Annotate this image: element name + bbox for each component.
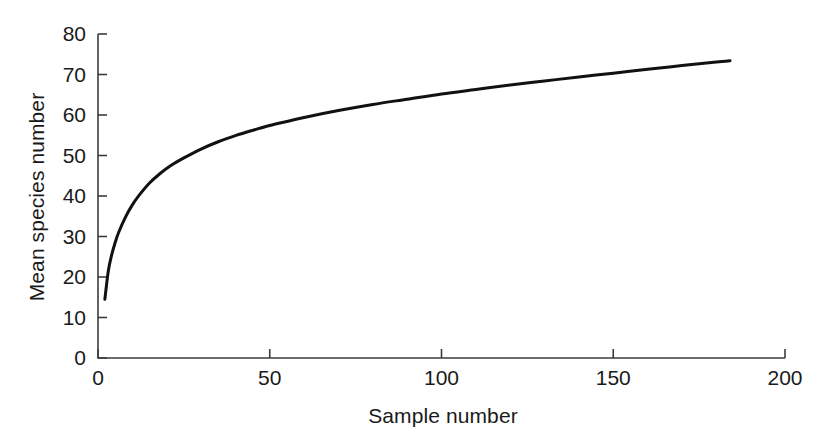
x-tick-label: 150 (596, 366, 631, 390)
y-tick-label: 20 (63, 265, 86, 289)
y-tick-label: 40 (63, 184, 86, 208)
chart-figure: 01020304050607080 050100150200 Mean spec… (0, 0, 815, 445)
x-tick-label: 200 (767, 366, 802, 390)
x-tick-label: 0 (92, 366, 104, 390)
y-tick-label: 10 (63, 306, 86, 330)
y-tick-label: 0 (74, 346, 86, 370)
data-series (105, 61, 730, 300)
x-tick-label: 50 (258, 366, 281, 390)
y-tick-label: 60 (63, 103, 86, 127)
y-tick-label: 70 (63, 63, 86, 87)
axis-lines (98, 34, 785, 358)
x-tick-label: 100 (424, 366, 459, 390)
series-line-0 (105, 61, 730, 300)
y-tick-label: 30 (63, 225, 86, 249)
axis-ticks (98, 34, 785, 358)
y-tick-label: 50 (63, 144, 86, 168)
x-axis-title: Sample number (98, 404, 788, 428)
chart-plot-area (0, 0, 815, 445)
y-tick-label: 80 (63, 22, 86, 46)
y-axis-title: Mean species number (20, 27, 54, 367)
